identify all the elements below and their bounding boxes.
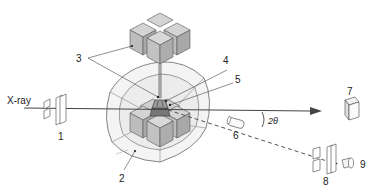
label-9: 9: [360, 159, 366, 170]
angle-arc: [262, 112, 264, 127]
incident-slits: [44, 94, 66, 125]
label-6: 6: [233, 130, 239, 141]
detector-9: [342, 158, 354, 168]
receiving-slits: [313, 144, 336, 174]
detector-7: [345, 97, 359, 120]
label-5: 5: [235, 74, 241, 85]
inner-anvils-top: [130, 13, 190, 64]
beam-arrowhead: [310, 107, 322, 115]
label-3: 3: [76, 53, 82, 64]
leader-3a: [88, 46, 132, 58]
label-7: 7: [347, 86, 353, 97]
label-1: 1: [58, 131, 64, 142]
angle-label: 2θ: [267, 116, 278, 126]
label-2: 2: [119, 173, 125, 184]
detector-6: [226, 116, 244, 129]
label-4: 4: [223, 55, 229, 66]
label-8: 8: [323, 176, 329, 187]
diagram-canvas: X-ray 1 2 3 4 5 6 7 8 9 2θ: [0, 0, 374, 192]
beam-label: X-ray: [7, 95, 31, 106]
